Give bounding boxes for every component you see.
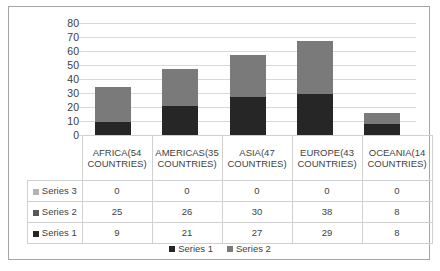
- table-cell: 8: [362, 202, 432, 223]
- table-column-header: AMERICAS(35 COUNTRIES): [152, 136, 222, 181]
- legend-swatch-icon: [33, 189, 39, 195]
- bar-segment[interactable]: [95, 87, 131, 122]
- y-axis-tick-50: 50: [67, 60, 79, 71]
- data-table: AFRICA(54 COUNTRIES)AMERICAS(35 COUNTRIE…: [27, 135, 433, 244]
- plot-area: [79, 23, 416, 135]
- table-row-key-label: Series 1: [42, 227, 77, 238]
- table-cell: 21: [152, 223, 222, 244]
- y-axis-tick-40: 40: [67, 74, 79, 85]
- table-column-header: OCEANIA(14 COUNTRIES): [362, 136, 432, 181]
- table-cell: 38: [292, 202, 362, 223]
- y-axis-tick-70: 70: [67, 32, 79, 43]
- table-row: Series 192127298: [28, 223, 433, 244]
- bar-segment[interactable]: [297, 41, 333, 94]
- chart-legend: Series 1Series 2: [9, 243, 431, 254]
- table-column-header: ASIA(47 COUNTRIES): [222, 136, 292, 181]
- y-axis-tick-labels: 80706050403020100: [53, 23, 79, 135]
- table-cell: 0: [292, 181, 362, 202]
- table-cell: 0: [82, 181, 152, 202]
- table-cell: 8: [362, 223, 432, 244]
- bars-layer: [79, 23, 416, 135]
- bar-group[interactable]: [230, 23, 266, 135]
- bar-segment[interactable]: [297, 94, 333, 135]
- table-cell: 30: [222, 202, 292, 223]
- y-axis-tick-10: 10: [67, 116, 79, 127]
- bar-segment[interactable]: [364, 113, 400, 124]
- table-row-key: Series 2: [28, 202, 83, 223]
- table-cell: 0: [222, 181, 292, 202]
- table-corner-cell: [28, 136, 83, 181]
- table-row-key: Series 1: [28, 223, 83, 244]
- table-cell: 27: [222, 223, 292, 244]
- legend-swatch-icon: [33, 210, 39, 216]
- table-header-row: AFRICA(54 COUNTRIES)AMERICAS(35 COUNTRIE…: [28, 136, 433, 181]
- bar-segment[interactable]: [230, 55, 266, 97]
- chart-frame: 80706050403020100 AFRICA(54 COUNTRIES)AM…: [8, 6, 430, 260]
- table-column-header: AFRICA(54 COUNTRIES): [82, 136, 152, 181]
- table-row: Series 300000: [28, 181, 433, 202]
- legend-swatch-icon: [227, 246, 233, 252]
- bar-segment[interactable]: [95, 122, 131, 135]
- y-axis-tick-60: 60: [67, 46, 79, 57]
- legend-label: Series 2: [236, 243, 271, 254]
- table-cell: 9: [82, 223, 152, 244]
- bar-group[interactable]: [95, 23, 131, 135]
- table-cell: 26: [152, 202, 222, 223]
- y-axis-tick-80: 80: [67, 18, 79, 29]
- table-row-key-label: Series 2: [42, 206, 77, 217]
- screenshot-root: 80706050403020100 AFRICA(54 COUNTRIES)AM…: [0, 0, 440, 271]
- y-axis-tick-20: 20: [67, 102, 79, 113]
- legend-entry[interactable]: Series 2: [227, 243, 271, 254]
- table-column-header: EUROPE(43 COUNTRIES): [292, 136, 362, 181]
- bar-segment[interactable]: [162, 69, 198, 105]
- table-cell: 25: [82, 202, 152, 223]
- y-axis-tick-30: 30: [67, 88, 79, 99]
- legend-label: Series 1: [178, 243, 213, 254]
- table-row: Series 2252630388: [28, 202, 433, 223]
- bar-segment[interactable]: [230, 97, 266, 135]
- table-cell: 0: [362, 181, 432, 202]
- bar-segment[interactable]: [364, 124, 400, 135]
- bar-group[interactable]: [162, 23, 198, 135]
- legend-swatch-icon: [33, 231, 39, 237]
- table-cell: 0: [152, 181, 222, 202]
- table-row-key-label: Series 3: [42, 185, 77, 196]
- table-body: Series 300000Series 2252630388Series 192…: [28, 181, 433, 244]
- table-row-key: Series 3: [28, 181, 83, 202]
- table-cell: 29: [292, 223, 362, 244]
- legend-swatch-icon: [169, 246, 175, 252]
- bar-segment[interactable]: [162, 106, 198, 135]
- legend-entry[interactable]: Series 1: [169, 243, 213, 254]
- bar-group[interactable]: [364, 23, 400, 135]
- bar-group[interactable]: [297, 23, 333, 135]
